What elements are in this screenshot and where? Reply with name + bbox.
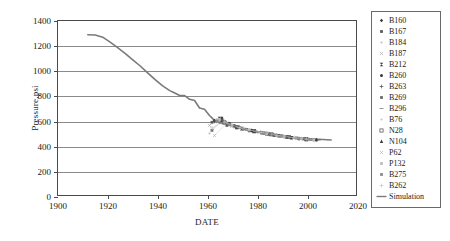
legend-label: B184 <box>388 37 406 48</box>
data-series <box>213 116 303 140</box>
filled-diamond-icon <box>375 15 388 26</box>
x-axis-tick <box>108 195 109 199</box>
legend: B160B167B184B187B212B260B263B269B296B76N… <box>371 11 441 208</box>
x-axis-tick-label: 2000 <box>299 201 317 211</box>
chart-figure: 0200400600800100012001400 19001920194019… <box>0 0 450 241</box>
bowtie-icon <box>375 59 388 70</box>
x-axis-title: DATE <box>58 217 356 227</box>
legend-item[interactable]: B260 <box>375 70 440 81</box>
plus-icon <box>375 81 388 92</box>
legend-item[interactable]: B76 <box>375 114 440 125</box>
y-axis-tick <box>54 197 58 198</box>
legend-item[interactable]: N28 <box>375 125 440 136</box>
legend-item[interactable]: B212 <box>375 59 440 70</box>
legend-label: B275 <box>388 169 406 180</box>
legend-label: B296 <box>388 103 406 114</box>
y-axis-tick-label: 1400 <box>33 16 51 26</box>
x-faint-icon <box>375 147 388 158</box>
x-axis-tick <box>158 195 159 199</box>
simulation-line <box>88 35 331 140</box>
small-square-icon <box>375 92 388 103</box>
legend-item[interactable]: B275 <box>375 169 440 180</box>
legend-label: B269 <box>388 92 406 103</box>
dot-icon <box>375 37 388 48</box>
plot-area: 0200400600800100012001400 19001920194019… <box>57 20 357 196</box>
x-axis-tick <box>258 195 259 199</box>
legend-item[interactable]: B263 <box>375 81 440 92</box>
filled-triangle-icon <box>375 136 388 147</box>
series-connector <box>222 121 316 140</box>
x-axis-tick <box>208 195 209 199</box>
legend-label: P62 <box>388 147 401 158</box>
y-axis-title: Pressure,psi <box>30 85 40 131</box>
x-axis-tick-label: 1940 <box>149 201 167 211</box>
legend-label: B262 <box>388 180 406 191</box>
y-axis-tick-label: 1000 <box>33 66 51 76</box>
legend-item[interactable]: P132 <box>375 158 440 169</box>
x-axis-tick-label: 1980 <box>249 201 267 211</box>
legend-label: Simulation <box>388 191 424 202</box>
legend-label: N104 <box>388 136 407 147</box>
data-series <box>218 118 315 141</box>
legend-label: B263 <box>388 81 406 92</box>
x-axis-tick-label: 1900 <box>49 201 67 211</box>
y-axis-tick-label: 1200 <box>33 41 51 51</box>
legend-label: P132 <box>388 158 405 169</box>
line-icon <box>375 191 388 202</box>
x-axis-tick-label: 1920 <box>99 201 117 211</box>
legend-item[interactable]: B160 <box>375 15 440 26</box>
legend-item[interactable]: B167 <box>375 26 440 37</box>
legend-item[interactable]: B187 <box>375 48 440 59</box>
legend-item[interactable]: B262 <box>375 180 440 191</box>
faint-square-icon <box>375 158 388 169</box>
data-series-layer <box>58 21 356 195</box>
dash-icon <box>375 103 388 114</box>
legend-label: B160 <box>388 15 406 26</box>
data-series <box>88 35 331 140</box>
x-axis-tick-label: 1960 <box>199 201 217 211</box>
filled-circle-icon <box>375 70 388 81</box>
y-axis-tick-label: 400 <box>38 142 52 152</box>
legend-label: B76 <box>388 114 402 125</box>
legend-label: B187 <box>388 48 406 59</box>
legend-label: B167 <box>388 26 406 37</box>
series-connector <box>219 119 313 140</box>
legend-label: B212 <box>388 59 406 70</box>
legend-item[interactable]: Simulation <box>375 191 440 202</box>
hollow-square-icon <box>375 125 388 136</box>
legend-item[interactable]: B269 <box>375 92 440 103</box>
y-axis-tick-label: 200 <box>38 167 52 177</box>
x-axis-tick <box>308 195 309 199</box>
legend-item[interactable]: B296 <box>375 103 440 114</box>
legend-label: N28 <box>388 125 403 136</box>
faint-plus-icon <box>375 180 388 191</box>
grey-square-icon <box>375 169 388 180</box>
x-small-icon <box>375 48 388 59</box>
legend-item[interactable]: B184 <box>375 37 440 48</box>
legend-item[interactable]: N104 <box>375 136 440 147</box>
series-connector <box>222 120 316 140</box>
filled-square-icon <box>375 26 388 37</box>
faint-dot-icon <box>375 114 388 125</box>
x-axis-tick-label: 2020 <box>349 201 367 211</box>
legend-item[interactable]: P62 <box>375 147 440 158</box>
legend-label: B260 <box>388 70 406 81</box>
